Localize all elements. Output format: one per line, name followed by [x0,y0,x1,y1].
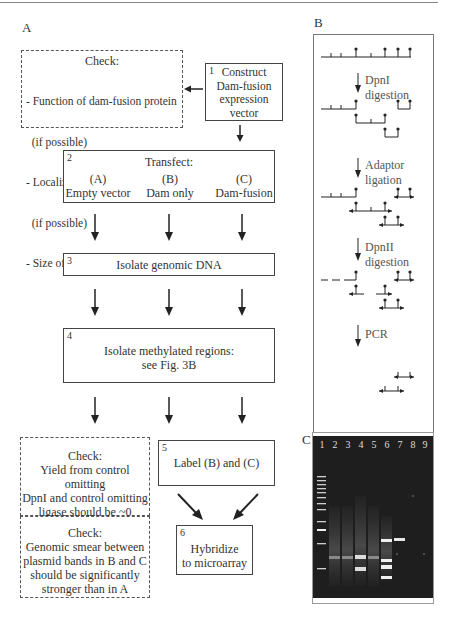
step-title: Transfect: [64,155,274,169]
step-text: Construct [206,66,282,80]
step-text: Dam-fusion [206,80,282,94]
check-title: Check: [22,54,182,68]
step-label-dpnii: DpnII digestion [365,240,433,270]
check-line: DpnI and control omitting [21,491,149,505]
step-text: Isolate genomic DNA [64,258,274,272]
check-line: should be significantly [21,568,149,582]
condition-label: Dam only [130,186,210,200]
condition-id: (A) [58,172,138,186]
condition-label: Empty vector [58,186,138,200]
step2-transfect: 2 Transfect: (A) Empty vector (B) Dam on… [63,150,275,203]
check-line: Yield from control omitting [21,463,149,491]
check-box-smear: Check: Genomic smear between plasmid ban… [20,516,150,598]
check-item: (if possible) [26,136,182,150]
step-label-adaptor: Adaptor ligation [365,158,433,188]
step5-label: 5 Label (B) and (C) [158,440,275,486]
step-number: 5 [162,442,167,453]
schematic-panel: DpnI digestion Adaptor ligation DpnII di… [313,34,434,434]
step-number: 4 [67,330,72,341]
page-top-rule [0,2,438,3]
check-box-vector: Check: - Function of dam-fusion protein … [21,50,183,128]
check-item: - Function of dam-fusion protein [26,95,182,109]
step1-construct-vector: 1 Construct Dam-fusion expression vector [205,63,283,121]
panel-a-label: A [22,20,31,36]
gel-bands-icon [313,436,433,598]
arrow-left-icon [183,84,205,94]
step-number: 2 [67,152,72,163]
arrows-converge-icon [170,490,270,526]
step4-isolate-methylated: 4 Isolate methylated regions: see Fig. 3… [63,328,275,383]
step-label-dpni: DpnI digestion [365,73,433,103]
panel-c-label: C [302,432,311,448]
gel-image: 1 2 3 4 5 6 7 8 9 [313,436,433,598]
check-line: plasmid bands in B and C [21,554,149,568]
step-text: vector [206,107,282,121]
check-line: stronger than in A [21,582,149,596]
check-title: Check: [21,526,149,540]
condition-label: Dam-fusion [204,186,284,200]
arrows-down-icon [63,287,275,317]
step-text: see Fig. 3B [64,358,274,372]
step-text: to microarray [177,556,252,570]
step-number: 6 [180,527,185,538]
arrows-down-icon [63,212,275,242]
arrows-down-icon [63,395,275,425]
condition-id: (C) [204,172,284,186]
check-line: Genomic smear between [21,540,149,554]
panel-b-label: B [314,15,323,31]
step-text: Hybridize [177,542,252,556]
check-box-yield: Check: Yield from control omitting DpnI … [20,437,150,516]
step6-hybridize: 6 Hybridize to microarray [176,525,253,575]
check-title: Check: [21,449,149,463]
step3-isolate-dna: 3 Isolate genomic DNA [63,253,275,276]
step-number: 1 [209,65,214,76]
condition-id: (B) [130,172,210,186]
step-text: Isolate methylated regions: [64,344,274,358]
step-text: expression [206,93,282,107]
step-number: 3 [67,255,72,266]
step-text: Label (B) and (C) [159,456,274,470]
arrow-down-icon [235,125,245,143]
step-label-pcr: PCR [365,327,388,342]
